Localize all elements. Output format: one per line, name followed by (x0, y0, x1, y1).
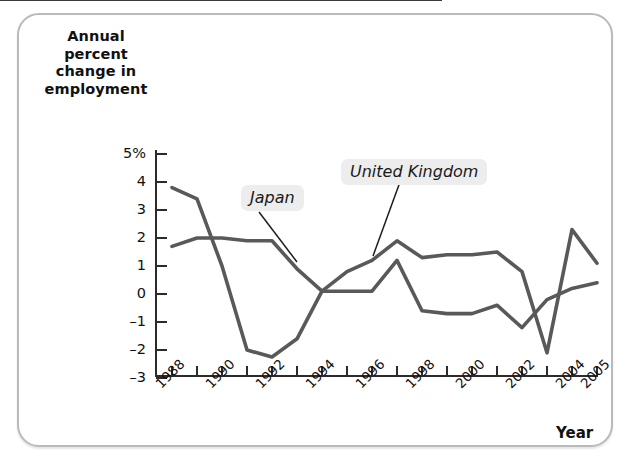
series-canvas (0, 0, 628, 462)
leader-line-japan (259, 212, 297, 262)
series-label-united-kingdom: United Kingdom (341, 159, 487, 185)
plot-area: 5%43210–1–2–3 19881990199219941996199820… (0, 0, 628, 462)
leader-line-united-kingdom (373, 182, 400, 256)
chart-figure: Annual percent change in employment 5%43… (0, 0, 628, 462)
series-label-japan: Japan (241, 185, 304, 211)
x-axis-title: Year (556, 424, 593, 442)
line-united-kingdom (172, 188, 597, 357)
